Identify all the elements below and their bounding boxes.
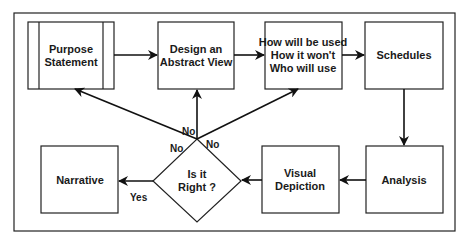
svg-text:Analysis: Analysis xyxy=(381,174,426,186)
analysis-label: Analysis xyxy=(381,174,426,186)
how-line2: How it won't xyxy=(271,49,336,61)
node-analysis: Analysis xyxy=(366,146,443,213)
edge-label-no-up: No xyxy=(182,126,195,137)
flowchart-diagram: Purpose Statement Design an Abstract Vie… xyxy=(0,0,466,241)
node-is-it-right-decision: Is it Right ? xyxy=(153,139,241,222)
purpose-line2: Statement xyxy=(44,56,98,68)
how-line3: Who will use xyxy=(270,62,337,74)
node-how-will-be-used: How will be used How it won't Who will u… xyxy=(259,22,348,89)
how-line1: How will be used xyxy=(259,36,348,48)
edge-label-no-right: No xyxy=(206,139,219,150)
svg-text:Design an: Design an xyxy=(170,43,223,55)
svg-text:Statement: Statement xyxy=(44,56,98,68)
node-visual-depiction: Visual Depiction xyxy=(262,146,339,213)
svg-text:Schedules: Schedules xyxy=(376,49,431,61)
purpose-line1: Purpose xyxy=(49,43,93,55)
svg-text:Right ?: Right ? xyxy=(178,181,216,193)
node-purpose-statement: Purpose Statement xyxy=(28,22,114,89)
design-line2: Abstract View xyxy=(160,56,233,68)
svg-text:Visual: Visual xyxy=(284,167,316,179)
node-schedules: Schedules xyxy=(365,22,443,89)
svg-text:Who will use: Who will use xyxy=(270,62,337,74)
visual-line1: Visual xyxy=(284,167,316,179)
schedules-label: Schedules xyxy=(376,49,431,61)
node-design-abstract-view: Design an Abstract View xyxy=(158,22,234,89)
arrow-decision-to-purpose xyxy=(75,89,197,139)
svg-text:How will be used: How will be used xyxy=(259,36,348,48)
svg-text:Abstract View: Abstract View xyxy=(160,56,233,68)
svg-text:Purpose: Purpose xyxy=(49,43,93,55)
decision-line2: Right ? xyxy=(178,181,216,193)
edge-label-yes: Yes xyxy=(130,192,148,203)
svg-text:Depiction: Depiction xyxy=(275,180,325,192)
design-line1: Design an xyxy=(170,43,223,55)
arrow-decision-to-how xyxy=(197,89,298,139)
visual-line2: Depiction xyxy=(275,180,325,192)
svg-text:Is it: Is it xyxy=(188,168,207,180)
decision-line1: Is it xyxy=(188,168,207,180)
node-narrative: Narrative xyxy=(41,146,118,213)
svg-text:How it won't: How it won't xyxy=(271,49,336,61)
svg-text:Narrative: Narrative xyxy=(56,174,104,186)
narrative-label: Narrative xyxy=(56,174,104,186)
edge-label-no-left: No xyxy=(170,143,183,154)
